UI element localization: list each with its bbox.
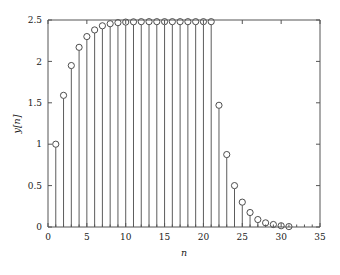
x-axis-tick-label: 5 [84,232,90,242]
stem-datapoint [224,151,230,227]
stem-datapoint [146,19,152,227]
stem-marker [138,19,144,25]
stem-marker [231,183,237,189]
stem-datapoint [60,92,66,227]
stem-marker [53,141,59,147]
stem-marker [255,216,261,222]
stem-marker [154,19,160,25]
stem-datapoint [107,21,113,227]
stem-datapoint [92,27,98,227]
stem-datapoint [231,183,237,228]
stem-datapoint [53,141,59,227]
axis-ticks-group [48,20,320,227]
stem-series-group [53,19,292,230]
y-axis-tick-label: 0.5 [28,181,43,191]
stem-datapoint [200,19,206,227]
stem-datapoint [185,19,191,227]
x-axis-tick-label: 25 [237,232,249,242]
stem-marker [224,151,230,157]
plot-box-outline [48,20,320,227]
stem-datapoint [154,19,160,227]
y-axis-tick-label: 2 [36,57,42,67]
stem-plot-svg: 0510152025303500.511.522.5 n y[n] [0,0,340,275]
y-axis-tick-label: 1 [36,139,42,149]
stem-datapoint [76,44,82,227]
stem-marker [216,102,222,108]
stem-marker [107,21,113,27]
x-axis-title: n [181,247,187,258]
y-axis-tick-label: 1.5 [28,98,43,108]
stem-datapoint [115,20,121,227]
stem-datapoint [216,102,222,227]
stem-marker [68,62,74,68]
stem-marker [177,19,183,25]
y-axis-tick-label: 0 [36,222,42,232]
y-axis-title: y[n] [11,114,22,134]
x-axis-tick-label: 10 [120,232,132,242]
stem-marker [84,33,90,39]
x-axis-tick-label: 30 [275,232,287,242]
stem-marker [193,19,199,25]
stem-marker [92,27,98,33]
stem-marker [99,23,105,29]
stem-datapoint [99,23,105,227]
axis-tick-labels-group: 0510152025303500.511.522.5 [28,15,326,242]
stem-marker [208,19,214,25]
x-axis-tick-label: 20 [198,232,210,242]
stem-marker [247,209,253,215]
stem-datapoint [84,33,90,227]
stem-datapoint [68,62,74,227]
stem-datapoint [123,19,129,227]
stem-datapoint [130,19,136,227]
chart-figure: 0510152025303500.511.522.5 n y[n] [0,0,340,275]
stem-datapoint [247,209,253,227]
stem-datapoint [208,19,214,227]
stem-datapoint [138,19,144,227]
y-axis-tick-label: 2.5 [28,15,43,25]
x-axis-tick-label: 15 [159,232,171,242]
x-axis-tick-label: 35 [314,232,326,242]
stem-marker [239,199,245,205]
stem-marker [185,19,191,25]
stem-marker [169,19,175,25]
stem-datapoint [177,19,183,227]
stem-datapoint [161,19,167,227]
stem-marker [146,19,152,25]
stem-datapoint [169,19,175,227]
plot-axes-group [48,20,320,227]
stem-datapoint [239,199,245,227]
stem-marker [76,44,82,50]
stem-datapoint [193,19,199,227]
x-axis-tick-label: 0 [45,232,51,242]
stem-marker [60,92,66,98]
